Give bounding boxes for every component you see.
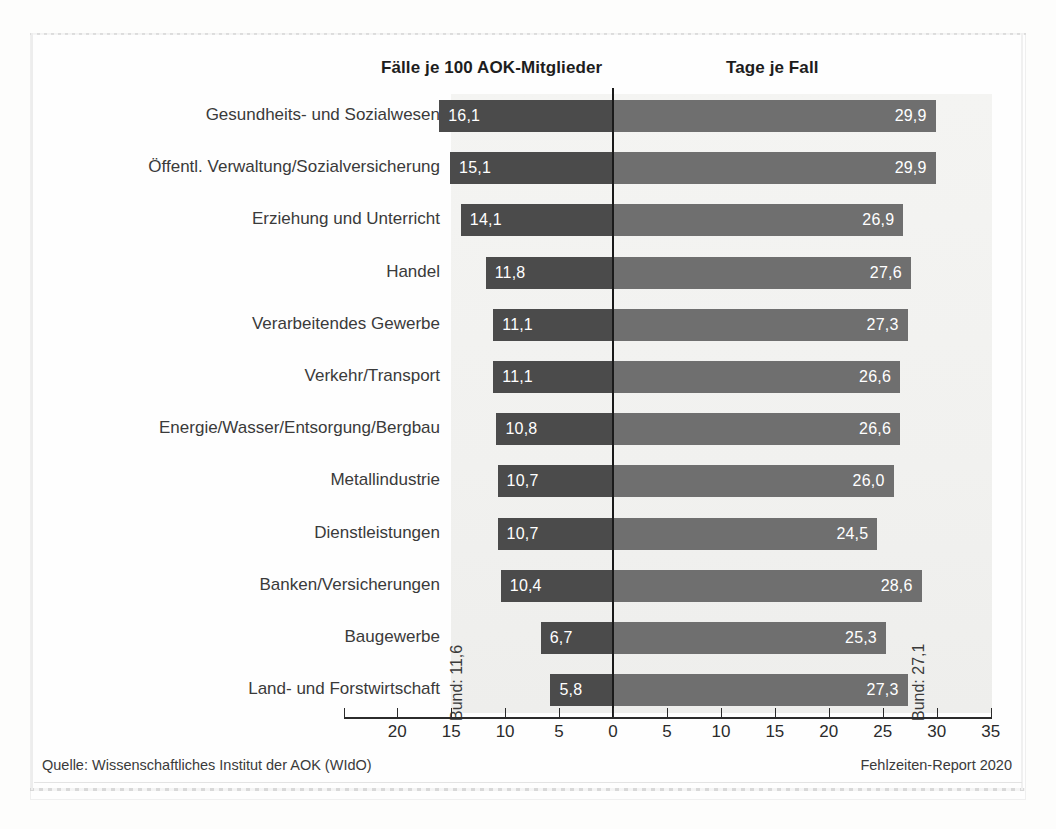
bar-value-tage: 26,6 bbox=[859, 368, 891, 386]
bar-faelle[interactable]: 15,1 bbox=[450, 152, 613, 184]
bar-tage[interactable]: 26,9 bbox=[613, 204, 903, 236]
axis-tick bbox=[397, 708, 398, 717]
category-label: Banken/Versicherungen bbox=[10, 575, 440, 595]
plot-background bbox=[451, 94, 992, 713]
bar-faelle[interactable]: 10,4 bbox=[501, 570, 613, 602]
bar-faelle[interactable]: 10,7 bbox=[498, 465, 613, 497]
bar-value-faelle: 10,8 bbox=[505, 420, 537, 438]
bar-tage[interactable]: 26,6 bbox=[613, 361, 900, 393]
bar-faelle[interactable]: 10,8 bbox=[496, 413, 613, 445]
category-label: Handel bbox=[10, 262, 440, 282]
bar-faelle[interactable]: 11,1 bbox=[493, 361, 613, 393]
category-label: Verarbeitendes Gewerbe bbox=[10, 314, 440, 334]
axis-tick bbox=[937, 708, 938, 717]
bar-row: Verkehr/Transport11,126,6 bbox=[0, 361, 1056, 393]
bar-row: Verarbeitendes Gewerbe11,127,3 bbox=[0, 309, 1056, 341]
axis-tick-label: 15 bbox=[755, 722, 795, 742]
bar-row: Energie/Wasser/Entsorgung/Bergbau10,826,… bbox=[0, 413, 1056, 445]
bar-tage[interactable]: 26,0 bbox=[613, 465, 894, 497]
column-header-faelle: Fälle je 100 AOK-Mitglieder bbox=[381, 58, 602, 78]
bar-faelle[interactable]: 5,8 bbox=[550, 674, 613, 706]
bar-value-tage: 27,6 bbox=[870, 264, 902, 282]
bar-tage[interactable]: 29,9 bbox=[613, 152, 936, 184]
zero-axis-line bbox=[612, 88, 614, 719]
bar-value-faelle: 10,7 bbox=[507, 472, 539, 490]
category-label: Öffentl. Verwaltung/Sozialversicherung bbox=[10, 157, 440, 177]
bund-average-right-label: Bund: 27,1 bbox=[910, 644, 928, 721]
bar-tage[interactable]: 26,6 bbox=[613, 413, 900, 445]
bar-row: Erziehung und Unterricht14,126,9 bbox=[0, 204, 1056, 236]
bar-value-faelle: 11,1 bbox=[502, 316, 533, 334]
source-note: Quelle: Wissenschaftliches Institut der … bbox=[42, 757, 372, 773]
bar-faelle[interactable]: 16,1 bbox=[439, 100, 613, 132]
category-label: Erziehung und Unterricht bbox=[10, 209, 440, 229]
bar-value-tage: 25,3 bbox=[845, 629, 877, 647]
bar-value-tage: 26,6 bbox=[859, 420, 891, 438]
axis-tick-label: 30 bbox=[917, 722, 957, 742]
category-label: Baugewerbe bbox=[10, 627, 440, 647]
bar-row: Handel11,827,6 bbox=[0, 257, 1056, 289]
axis-tick bbox=[451, 708, 452, 717]
bar-tage[interactable]: 27,3 bbox=[613, 309, 908, 341]
bar-value-faelle: 11,1 bbox=[502, 368, 533, 386]
column-header-tage: Tage je Fall bbox=[726, 58, 819, 78]
bar-tage[interactable]: 25,3 bbox=[613, 622, 886, 654]
axis-tick-label: 15 bbox=[431, 722, 471, 742]
axis-tick bbox=[991, 708, 992, 717]
bar-value-tage: 26,0 bbox=[853, 472, 885, 490]
bar-value-faelle: 14,1 bbox=[470, 211, 502, 229]
bar-row: Land- und Forstwirtschaft5,827,3 bbox=[0, 674, 1056, 706]
bar-row: Dienstleistungen10,724,5 bbox=[0, 518, 1056, 550]
bar-value-tage: 24,5 bbox=[836, 525, 868, 543]
bar-value-tage: 27,3 bbox=[867, 316, 899, 334]
x-axis-line bbox=[344, 717, 992, 719]
bar-value-faelle: 6,7 bbox=[550, 629, 573, 647]
category-label: Land- und Forstwirtschaft bbox=[10, 679, 440, 699]
scan-edge-bottom bbox=[30, 788, 1026, 791]
bar-value-tage: 27,3 bbox=[867, 681, 899, 699]
bar-faelle[interactable]: 10,7 bbox=[498, 518, 613, 550]
axis-tick-label: 0 bbox=[593, 722, 633, 742]
bar-faelle[interactable]: 14,1 bbox=[461, 204, 613, 236]
axis-tick-label: 5 bbox=[647, 722, 687, 742]
axis-tick-label: 25 bbox=[863, 722, 903, 742]
bar-value-faelle: 10,4 bbox=[510, 577, 542, 595]
bar-faelle[interactable]: 6,7 bbox=[541, 622, 613, 654]
axis-tick-label: 5 bbox=[539, 722, 579, 742]
bar-faelle[interactable]: 11,8 bbox=[486, 257, 613, 289]
bar-row: Baugewerbe6,725,3 bbox=[0, 622, 1056, 654]
axis-tick-label: 10 bbox=[485, 722, 525, 742]
axis-tick-label: 10 bbox=[701, 722, 741, 742]
bar-value-faelle: 11,8 bbox=[495, 264, 526, 282]
bar-value-faelle: 10,7 bbox=[507, 525, 539, 543]
category-label: Verkehr/Transport bbox=[10, 366, 440, 386]
scan-edge-top bbox=[30, 33, 1026, 35]
axis-tick bbox=[667, 708, 668, 717]
bar-tage[interactable]: 27,3 bbox=[613, 674, 908, 706]
bar-value-tage: 26,9 bbox=[862, 211, 894, 229]
category-label: Energie/Wasser/Entsorgung/Bergbau bbox=[10, 418, 440, 438]
axis-tick bbox=[721, 708, 722, 717]
bar-value-faelle: 15,1 bbox=[459, 159, 491, 177]
axis-tick-label: 35 bbox=[971, 722, 1011, 742]
axis-tick bbox=[829, 708, 830, 717]
bar-faelle[interactable]: 11,1 bbox=[493, 309, 613, 341]
bar-value-faelle: 16,1 bbox=[448, 107, 480, 125]
axis-tick-label: 20 bbox=[377, 722, 417, 742]
category-label: Dienstleistungen bbox=[10, 523, 440, 543]
bar-row: Banken/Versicherungen10,428,6 bbox=[0, 570, 1056, 602]
category-label: Metallindustrie bbox=[10, 470, 440, 490]
bar-row: Gesundheits- und Sozialwesen16,129,9 bbox=[0, 100, 1056, 132]
bar-tage[interactable]: 29,9 bbox=[613, 100, 936, 132]
axis-tick bbox=[613, 708, 614, 717]
bar-value-tage: 29,9 bbox=[895, 159, 927, 177]
bar-tage[interactable]: 28,6 bbox=[613, 570, 922, 602]
bar-tage[interactable]: 27,6 bbox=[613, 257, 911, 289]
category-label: Gesundheits- und Sozialwesen bbox=[10, 105, 440, 125]
axis-tick bbox=[775, 708, 776, 717]
bar-tage[interactable]: 24,5 bbox=[613, 518, 877, 550]
bar-value-tage: 28,6 bbox=[881, 577, 913, 595]
bar-row: Öffentl. Verwaltung/Sozialversicherung15… bbox=[0, 152, 1056, 184]
report-note: Fehlzeiten-Report 2020 bbox=[860, 757, 1012, 773]
bar-value-tage: 29,9 bbox=[895, 107, 927, 125]
